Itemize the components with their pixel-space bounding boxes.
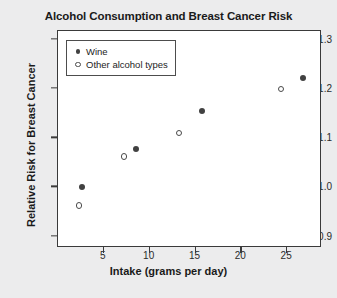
data-point [121,153,128,160]
chart-figure: Alcohol Consumption and Breast Cancer Ri… [0,0,337,298]
x-tick-mark [240,247,241,253]
x-tick-mark [195,247,196,253]
y-axis-label: Relative Risk for Breast Cancer [25,35,37,255]
data-point [79,184,85,190]
x-tick-mark [103,247,104,253]
chart-title: Alcohol Consumption and Breast Cancer Ri… [0,10,337,22]
data-point [133,146,139,152]
legend-item-label: Other alcohol types [84,59,168,70]
legend-item: Wine [72,45,168,58]
x-axis-label: Intake (grams per day) [0,265,337,277]
data-point [76,202,83,209]
x-tick-mark [149,247,150,253]
data-point [278,86,285,93]
data-point [300,75,306,81]
data-point [199,108,205,114]
open-circle-icon [72,62,84,68]
chart-legend: WineOther alcohol types [66,40,176,76]
x-tick-mark [286,247,287,253]
legend-item: Other alcohol types [72,58,168,71]
data-point [176,130,183,137]
filled-circle-icon [72,49,84,54]
legend-item-label: Wine [84,46,108,57]
